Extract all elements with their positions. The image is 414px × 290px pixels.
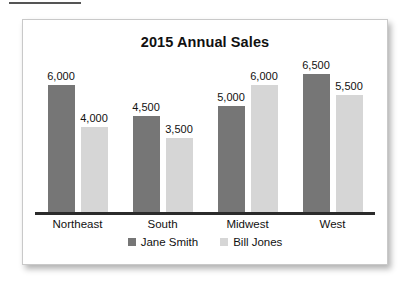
bar-value-label: 4,500 bbox=[132, 102, 160, 113]
chart-card: 2015 Annual Sales 6,0004,0004,5003,5005,… bbox=[22, 19, 388, 265]
category-label: South bbox=[120, 218, 205, 230]
bar-rect[interactable] bbox=[218, 106, 245, 212]
bar-item[interactable]: 4,500 bbox=[133, 58, 160, 212]
x-axis-line bbox=[35, 212, 375, 215]
bar-value-label: 4,000 bbox=[80, 113, 108, 124]
bar-value-label: 5,000 bbox=[217, 92, 245, 103]
bar-value-label: 3,500 bbox=[165, 124, 193, 135]
bar-group: 4,5003,500 bbox=[120, 58, 205, 212]
bar-pair: 6,5005,500 bbox=[290, 58, 375, 212]
bar-rect[interactable] bbox=[133, 116, 160, 212]
bar-item[interactable]: 6,000 bbox=[48, 58, 75, 212]
bar-rect[interactable] bbox=[166, 138, 193, 212]
bar-rect[interactable] bbox=[48, 85, 75, 212]
bar-item[interactable]: 5,000 bbox=[218, 58, 245, 212]
bar-value-label: 6,000 bbox=[47, 71, 75, 82]
top-divider-rule bbox=[9, 2, 81, 4]
bar-pair: 4,5003,500 bbox=[120, 58, 205, 212]
legend-label: Bill Jones bbox=[233, 236, 282, 248]
bar-rect[interactable] bbox=[81, 127, 108, 212]
legend-item[interactable]: Jane Smith bbox=[128, 236, 199, 248]
chart-legend: Jane SmithBill Jones bbox=[23, 236, 387, 248]
legend-item[interactable]: Bill Jones bbox=[220, 236, 282, 248]
bar-group: 6,5005,500 bbox=[290, 58, 375, 212]
bar-pair: 6,0004,000 bbox=[35, 58, 120, 212]
legend-swatch-icon bbox=[128, 238, 136, 246]
category-label: Midwest bbox=[205, 218, 290, 230]
bar-value-label: 6,000 bbox=[250, 71, 278, 82]
legend-label: Jane Smith bbox=[141, 236, 199, 248]
category-axis-labels: NortheastSouthMidwestWest bbox=[35, 218, 375, 236]
bar-rect[interactable] bbox=[251, 85, 278, 212]
legend-swatch-icon bbox=[220, 238, 228, 246]
plot-area: 6,0004,0004,5003,5005,0006,0006,5005,500 bbox=[35, 58, 375, 212]
category-label: Northeast bbox=[35, 218, 120, 230]
bar-value-label: 6,500 bbox=[302, 60, 330, 71]
bar-pair: 5,0006,000 bbox=[205, 58, 290, 212]
chart-title: 2015 Annual Sales bbox=[23, 34, 387, 50]
bar-rect[interactable] bbox=[336, 95, 363, 212]
bar-value-label: 5,500 bbox=[335, 81, 363, 92]
bar-group: 6,0004,000 bbox=[35, 58, 120, 212]
bar-group: 5,0006,000 bbox=[205, 58, 290, 212]
bar-item[interactable]: 6,500 bbox=[303, 58, 330, 212]
category-label: West bbox=[290, 218, 375, 230]
bar-rect[interactable] bbox=[303, 74, 330, 212]
bar-item[interactable]: 3,500 bbox=[166, 58, 193, 212]
bar-item[interactable]: 5,500 bbox=[336, 58, 363, 212]
bar-item[interactable]: 4,000 bbox=[81, 58, 108, 212]
bar-item[interactable]: 6,000 bbox=[251, 58, 278, 212]
